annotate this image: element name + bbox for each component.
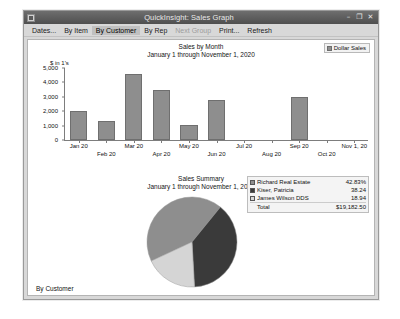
bar-slot — [203, 68, 231, 140]
x-axis-slot: Jul 20 — [230, 142, 258, 166]
bar-slot — [93, 68, 121, 140]
legend-swatch-dollar-sales — [327, 46, 332, 51]
client-area: Sales by Month January 1 through Novembe… — [27, 39, 375, 296]
x-axis-tick-label: Apr 20 — [153, 151, 171, 157]
bar-slot — [65, 68, 93, 140]
x-axis-slot: Jun 20 — [203, 142, 231, 166]
x-axis-tick-label: Jun 20 — [207, 151, 225, 157]
status-label: By Customer — [36, 285, 74, 292]
legend-label: Richard Real Estate — [257, 178, 346, 186]
bar-chart-plot: 5,0004,0003,0002,0001,0000 Jan 20Feb 20M… — [28, 68, 374, 172]
bar-slot — [230, 68, 258, 140]
legend-label: Kiser, Patricia — [257, 186, 351, 194]
bar-chart-legend: Dollar Sales — [324, 43, 370, 53]
bar-slot — [120, 68, 148, 140]
x-axis-slot: Apr 20 — [148, 142, 176, 166]
bar[interactable] — [125, 74, 142, 140]
app-icon[interactable] — [27, 14, 35, 22]
legend-total-value: $19,182.50 — [336, 203, 366, 211]
x-axis-tick-label: Aug 20 — [262, 151, 281, 157]
bar-slot — [313, 68, 341, 140]
menu-item-print[interactable]: Print... — [215, 26, 243, 35]
legend-swatch-richard-real-estate — [250, 180, 255, 185]
bar[interactable] — [98, 121, 115, 140]
bar-chart-x-axis: Jan 20Feb 20Mar 20Apr 20May 20Jun 20Jul … — [65, 142, 368, 166]
x-axis-slot: May 20 — [175, 142, 203, 166]
x-axis-slot: Jan 20 — [65, 142, 93, 166]
menu-item-by-item[interactable]: By Item — [60, 26, 92, 35]
x-axis-slot: Aug 20 — [258, 142, 286, 166]
bar-slot — [148, 68, 176, 140]
bar[interactable] — [153, 90, 170, 140]
x-axis-tick-label: Jul 20 — [236, 143, 252, 149]
menu-item-by-customer[interactable]: By Customer — [92, 26, 140, 35]
bar[interactable] — [180, 125, 197, 140]
bar[interactable] — [208, 100, 225, 140]
y-axis-tick-label: 3,000 — [43, 94, 58, 100]
legend-row-total: Total $19,182.50 — [250, 202, 366, 211]
legend-row: James Wilson DDS 18.94 — [250, 194, 366, 202]
legend-value: 18.94 — [351, 194, 366, 202]
legend-row: Kiser, Patricia 38.24 — [250, 186, 366, 194]
bar-chart-title: Sales by Month — [28, 40, 374, 51]
menu-item-refresh[interactable]: Refresh — [243, 26, 276, 35]
legend-label: James Wilson DDS — [257, 194, 351, 202]
x-axis-slot: Mar 20 — [120, 142, 148, 166]
maximize-button[interactable]: ❐ — [354, 13, 365, 22]
bar-slot — [340, 68, 368, 140]
menu-item-next-group: Next Group — [171, 26, 215, 35]
x-axis-tick-label: Sep 20 — [290, 143, 309, 149]
bar-slot — [175, 68, 203, 140]
bar-series-dollar-sales — [65, 68, 368, 140]
x-axis-tick-label: Mar 20 — [125, 143, 144, 149]
legend-value: 42.83% — [346, 178, 366, 186]
x-axis-tick-label: Feb 20 — [97, 151, 116, 157]
x-axis-slot: Sep 20 — [285, 142, 313, 166]
menu-bar: Dates... By Item By Customer By Rep Next… — [24, 24, 378, 37]
legend-value: 38.24 — [351, 186, 366, 194]
x-axis-tick-label: Oct 20 — [318, 151, 336, 157]
bar-chart-subtitle: January 1 through November 1, 2020 — [28, 51, 374, 59]
bar-slot — [285, 68, 313, 140]
legend-total-label: Total — [250, 203, 336, 211]
pie-chart-graphic — [146, 196, 238, 288]
bar-chart-panel: Sales by Month January 1 through Novembe… — [28, 40, 374, 172]
title-bar: QuickInsight: Sales Graph – ❐ ✕ — [24, 11, 378, 24]
x-axis-slot: Feb 20 — [93, 142, 121, 166]
x-axis-slot: Nov 1, 20 — [340, 142, 368, 166]
legend-swatch-james-wilson-dds — [250, 196, 255, 201]
legend-label-dollar-sales: Dollar Sales — [334, 45, 366, 51]
bar[interactable] — [70, 111, 87, 140]
x-axis-slot: Oct 20 — [313, 142, 341, 166]
minimize-button[interactable]: – — [343, 13, 354, 22]
y-axis-tick-label: 0 — [55, 137, 58, 143]
menu-item-by-rep[interactable]: By Rep — [140, 26, 171, 35]
bar[interactable] — [291, 97, 308, 140]
close-button[interactable]: ✕ — [365, 13, 376, 22]
bar-slot — [258, 68, 286, 140]
x-axis-tick-label: May 20 — [179, 143, 199, 149]
x-axis-tick-label: Nov 1, 20 — [341, 143, 367, 149]
menu-item-dates[interactable]: Dates... — [28, 26, 60, 35]
y-axis-tick-label: 5,000 — [43, 65, 58, 71]
y-axis-tick-label: 2,000 — [43, 108, 58, 114]
y-axis-tick-label: 1,000 — [43, 123, 58, 129]
x-axis-tick-label: Jan 20 — [70, 143, 88, 149]
pie-chart-legend: Richard Real Estate 42.83% Kiser, Patric… — [247, 176, 369, 213]
pie-chart-panel: Sales Summary January 1 through November… — [28, 172, 374, 296]
legend-swatch-kiser-patricia — [250, 188, 255, 193]
bar-chart-y-axis: 5,0004,0003,0002,0001,0000 — [28, 68, 62, 140]
y-axis-tick-label: 4,000 — [43, 79, 58, 85]
window-title: QuickInsight: Sales Graph — [35, 13, 343, 22]
legend-row: Richard Real Estate 42.83% — [250, 178, 366, 186]
application-window: QuickInsight: Sales Graph – ❐ ✕ Dates...… — [23, 10, 379, 300]
